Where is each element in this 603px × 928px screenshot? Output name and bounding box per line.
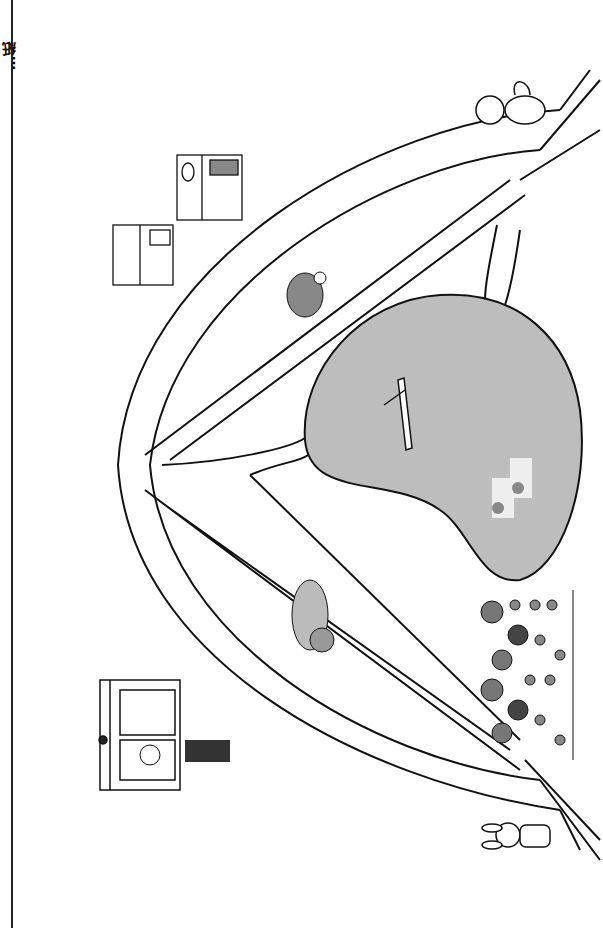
police-box-icon	[99, 680, 180, 790]
map-illustration	[0, 0, 603, 928]
turtle-icon	[287, 272, 326, 317]
pond	[305, 295, 582, 581]
rabbit-icon	[482, 823, 550, 849]
cake-shop-icon	[113, 225, 173, 285]
sunflower-field-icon	[481, 590, 573, 760]
dog-icon	[292, 580, 334, 652]
bakery-icon	[177, 155, 242, 220]
fox-icon	[476, 82, 545, 124]
